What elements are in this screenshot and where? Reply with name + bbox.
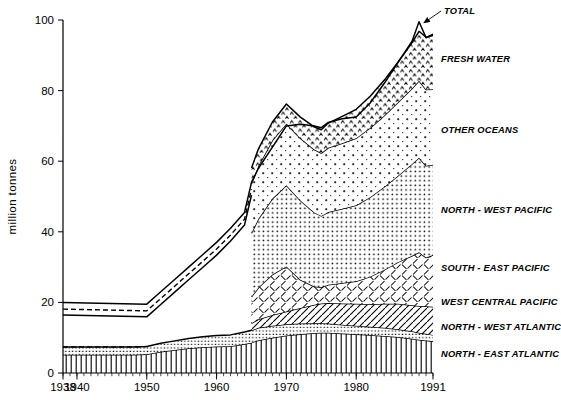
series-label: NORTH - EAST ATLANTIC <box>441 349 559 359</box>
stacked-area-layers <box>63 22 433 373</box>
y-axis-title: million tonnes <box>6 159 18 235</box>
series-label: NORTH - WEST PACIFIC <box>441 205 552 215</box>
total-inner-dashed <box>63 189 251 311</box>
series-label: OTHER OCEANS <box>441 125 519 135</box>
series-label: NORTH - WEST ATLANTIC <box>441 322 561 332</box>
x-tick-label: 1970 <box>274 381 300 393</box>
y-tick-label: 40 <box>41 226 54 238</box>
y-tick-label: 80 <box>41 85 54 97</box>
fisheries-catch-chart: 0204060801001938194019501960197019801991… <box>0 0 561 400</box>
y-tick-label: 0 <box>48 367 54 379</box>
chart-svg: 0204060801001938194019501960197019801991… <box>0 0 561 400</box>
series-label: WEST CENTRAL PACIFIC <box>441 297 558 307</box>
x-tick-label: 1991 <box>420 381 446 393</box>
y-tick-label: 100 <box>35 14 54 26</box>
x-tick-label: 1980 <box>343 381 369 393</box>
y-tick-label: 20 <box>41 296 54 308</box>
total-leader-arrow <box>424 11 441 23</box>
x-tick-label: 1960 <box>204 381 230 393</box>
total-annotation: TOTAL <box>444 6 475 16</box>
total-inner-edge <box>63 195 251 317</box>
series-label: FRESH WATER <box>441 54 510 64</box>
x-tick-label: 1950 <box>134 381 160 393</box>
x-tick-label: 1940 <box>64 381 90 393</box>
series-label: SOUTH - EAST PACIFIC <box>441 263 550 273</box>
series-labels: FRESH WATEROTHER OCEANSNORTH - WEST PACI… <box>424 6 561 359</box>
y-tick-label: 60 <box>41 155 54 167</box>
